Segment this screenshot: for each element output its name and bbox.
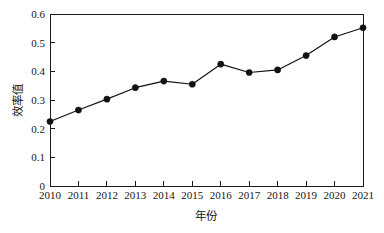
x-tick-label-2016: 2016 xyxy=(210,189,233,201)
data-point-2015 xyxy=(189,81,195,87)
x-axis-ticks xyxy=(50,181,363,186)
x-tick-label-2014: 2014 xyxy=(153,189,176,201)
x-tick-label-2015: 2015 xyxy=(181,189,204,201)
data-point-2013 xyxy=(132,85,138,91)
x-tick-label-2011: 2011 xyxy=(68,189,90,201)
data-point-2014 xyxy=(161,78,167,84)
y-tick-label-0.1: 0.1 xyxy=(31,151,45,163)
data-point-2012 xyxy=(104,96,110,102)
x-tick-label-2017: 2017 xyxy=(238,189,261,201)
y-tick-label-0.3: 0.3 xyxy=(31,94,45,106)
x-tick-label-2010: 2010 xyxy=(39,189,62,201)
x-tick-label-2019: 2019 xyxy=(295,189,318,201)
x-tick-label-2018: 2018 xyxy=(267,189,290,201)
plot-frame xyxy=(50,14,363,186)
x-axis-tick-labels: 2010 2011 2012 2013 2014 2015 2016 2017 … xyxy=(39,189,374,201)
data-series-efficiency xyxy=(47,25,366,125)
y-tick-label-0.6: 0.6 xyxy=(31,8,45,20)
data-point-2020 xyxy=(331,34,337,40)
data-point-2019 xyxy=(303,52,309,58)
y-tick-label-0.5: 0.5 xyxy=(31,37,45,49)
data-point-2011 xyxy=(75,107,81,113)
data-point-2016 xyxy=(218,61,224,67)
y-axis-title: 效率值 xyxy=(11,83,24,117)
x-axis-title: 年份 xyxy=(195,209,218,222)
line-chart: 0 0.1 0.2 0.3 0.4 0.5 0.6 2010 2011 xyxy=(0,0,384,233)
y-tick-label-0.4: 0.4 xyxy=(31,65,45,77)
x-tick-label-2012: 2012 xyxy=(96,189,118,201)
data-point-2010 xyxy=(47,118,53,124)
x-tick-label-2021: 2021 xyxy=(352,189,374,201)
chart-figure: 0 0.1 0.2 0.3 0.4 0.5 0.6 2010 2011 xyxy=(0,0,384,233)
data-point-2018 xyxy=(275,67,281,73)
y-axis-tick-labels: 0 0.1 0.2 0.3 0.4 0.5 0.6 xyxy=(31,8,45,192)
x-tick-label-2020: 2020 xyxy=(324,189,347,201)
data-point-2017 xyxy=(246,69,252,75)
y-axis-ticks xyxy=(50,14,55,186)
x-tick-label-2013: 2013 xyxy=(124,189,147,201)
y-tick-label-0.2: 0.2 xyxy=(31,123,45,135)
data-point-2021 xyxy=(360,25,366,31)
series-line xyxy=(50,28,363,122)
